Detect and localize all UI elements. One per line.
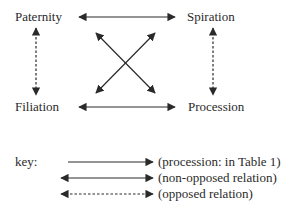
- key-text-opposed: (opposed relation): [158, 187, 253, 201]
- node-spiration: Spiration: [187, 10, 235, 24]
- key-label: key:: [15, 155, 37, 169]
- node-paternity: Paternity: [15, 10, 62, 24]
- node-procession: Procession: [188, 100, 244, 114]
- key-text-non-opposed: (non-opposed relation): [158, 171, 277, 185]
- node-filiation: Filiation: [15, 100, 59, 114]
- key-text-procession: (procession: in Table 1): [158, 155, 281, 169]
